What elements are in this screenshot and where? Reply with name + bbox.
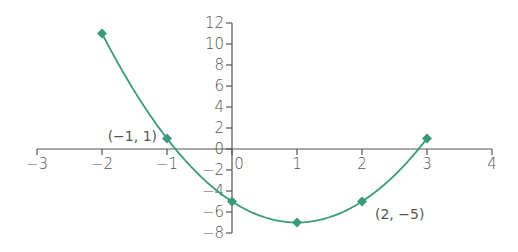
x-axis: −3−2−101234 (26, 149, 497, 173)
y-tick-label: −2 (202, 161, 224, 179)
y-axis: 121086420−2−4−6−8 (202, 14, 232, 242)
x-tick-label: −1 (156, 155, 178, 173)
y-tick-label: −8 (202, 224, 224, 242)
y-tick-label: −4 (202, 182, 224, 200)
x-tick-label: 0 (234, 155, 244, 173)
diamond-marker-icon (227, 197, 237, 207)
x-tick-label: 1 (292, 155, 302, 173)
y-tick-label: −6 (202, 203, 224, 221)
diamond-marker-icon (97, 29, 107, 39)
y-tick-label: 0 (214, 140, 224, 158)
x-tick-label: 3 (422, 155, 432, 173)
diamond-marker-icon (292, 218, 302, 228)
x-tick-label: −3 (26, 155, 48, 173)
x-tick-label: 2 (357, 155, 367, 173)
annotations: (−1, 1)(2, −5) (108, 128, 425, 222)
y-tick-label: 8 (214, 56, 224, 74)
y-tick-label: 2 (214, 119, 224, 137)
diamond-marker-icon (357, 197, 367, 207)
y-tick-label: 6 (214, 77, 224, 95)
point-annotation: (−1, 1) (108, 128, 157, 144)
y-tick-label: 4 (214, 98, 224, 116)
y-tick-label: 12 (205, 14, 224, 32)
point-annotation: (2, −5) (375, 206, 424, 222)
y-tick-label: 10 (205, 35, 224, 53)
function-graph: −3−2−101234 121086420−2−4−6−8 (−1, 1)(2,… (0, 0, 518, 252)
x-tick-label: 4 (487, 155, 497, 173)
x-tick-label: −2 (91, 155, 113, 173)
